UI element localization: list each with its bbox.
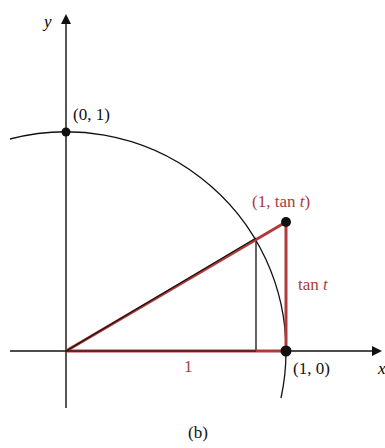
point-x-intercept — [281, 346, 292, 357]
tan-segment-label: tan t — [298, 275, 329, 294]
unit-circle-arc — [10, 132, 286, 398]
point-top — [62, 128, 71, 137]
figure-caption: (b) — [188, 423, 208, 442]
x-axis-label: x — [377, 359, 385, 378]
point-tan — [281, 217, 291, 227]
point-top-label: (0, 1) — [73, 105, 110, 124]
radius-segment — [66, 238, 256, 351]
base-segment-label: 1 — [184, 357, 193, 376]
unit-circle-tangent-diagram: y x (0, 1) (1, tan t) tan t 1 (1, 0) (b) — [0, 0, 385, 448]
point-tan-label: (1, tan t) — [252, 192, 310, 211]
y-axis-label: y — [42, 12, 52, 31]
point-x-intercept-label: (1, 0) — [293, 359, 330, 378]
